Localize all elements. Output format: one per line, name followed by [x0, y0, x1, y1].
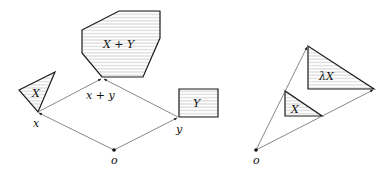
- ray-o-to-top: [256, 47, 307, 150]
- ray-o-to-right: [256, 90, 373, 150]
- label-point-x-plus-y: x + y: [86, 89, 115, 102]
- label-point-y: y: [175, 123, 183, 136]
- label-x-shape: X: [31, 87, 41, 100]
- label-origin: o: [111, 154, 118, 167]
- vector-y-to-xy: [104, 79, 178, 117]
- label-x-shape-right: X: [290, 103, 300, 116]
- label-origin-right: o: [253, 154, 260, 167]
- vector-o-to-x: [39, 113, 114, 150]
- scalar-multiple-diagram: X λX o: [253, 46, 374, 167]
- label-point-x: x: [33, 117, 40, 130]
- vector-o-to-y: [114, 118, 177, 150]
- shape-lambda-x-triangle: [308, 46, 374, 89]
- origin-point: [112, 148, 116, 152]
- minkowski-sum-diagram: X X + Y Y x y x + y o: [19, 11, 218, 167]
- diagram-canvas: X X + Y Y x y x + y o X λX o: [0, 0, 391, 172]
- label-lambda-x-shape: λX: [318, 70, 335, 83]
- label-x-plus-y-shape: X + Y: [102, 38, 136, 51]
- origin-point-right: [254, 148, 258, 152]
